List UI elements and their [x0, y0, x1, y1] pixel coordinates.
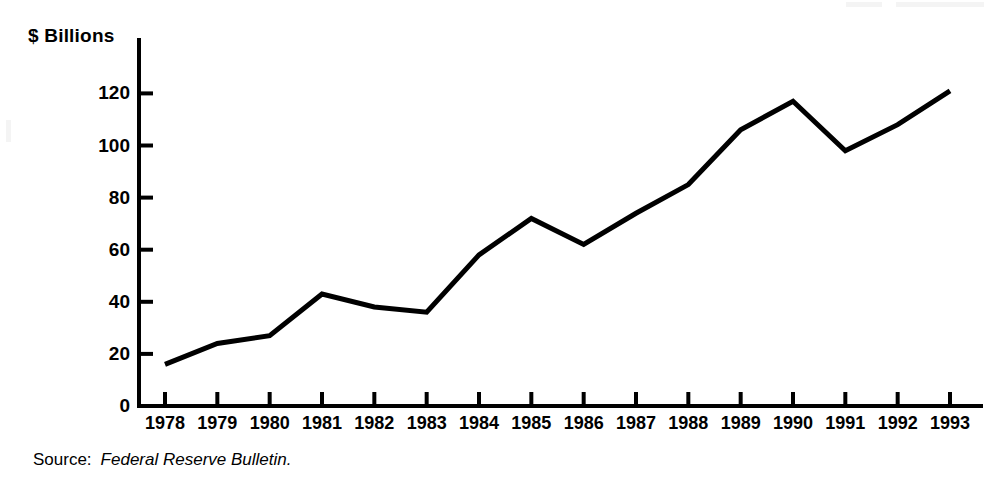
source-note: Source:Federal Reserve Bulletin.	[33, 450, 291, 470]
y-tick-label: 100	[70, 136, 130, 155]
source-title: Federal Reserve Bulletin.	[101, 450, 292, 469]
y-tick-labels: 020406080100120	[68, 0, 130, 445]
y-tick-label: 80	[70, 188, 130, 207]
y-tick-label: 120	[70, 83, 130, 102]
x-tick-label: 1978	[135, 414, 195, 432]
x-tick-label: 1993	[920, 414, 980, 432]
x-tick-label: 1981	[292, 414, 352, 432]
x-tick-label: 1990	[763, 414, 823, 432]
y-tick-label: 40	[70, 292, 130, 311]
x-tick-label: 1982	[344, 414, 404, 432]
x-tick-label: 1983	[397, 414, 457, 432]
x-tick-label: 1979	[187, 414, 247, 432]
x-tick-label: 1985	[501, 414, 561, 432]
chart-axes	[137, 38, 983, 406]
source-label: Source:	[33, 450, 92, 469]
x-tick-label: 1986	[554, 414, 614, 432]
x-tick-label: 1991	[815, 414, 875, 432]
y-tick-label: 20	[70, 344, 130, 363]
y-tick-marks	[139, 93, 153, 354]
data-series-line	[165, 91, 950, 365]
chart-canvas	[0, 0, 990, 445]
y-tick-label: 0	[70, 396, 130, 415]
x-tick-label: 1989	[711, 414, 771, 432]
plot-area: 020406080100120 197819791980198119821983…	[0, 0, 990, 445]
x-tick-label: 1988	[658, 414, 718, 432]
x-tick-label: 1992	[868, 414, 928, 432]
x-tick-label: 1984	[449, 414, 509, 432]
x-tick-marks	[165, 392, 950, 406]
x-tick-label: 1980	[240, 414, 300, 432]
y-tick-label: 60	[70, 240, 130, 259]
x-tick-labels: 1978197919801981198219831984198519861987…	[0, 414, 990, 444]
x-tick-label: 1987	[606, 414, 666, 432]
chart-figure: $ Billions 020406080100120 1978197919801…	[0, 0, 990, 485]
